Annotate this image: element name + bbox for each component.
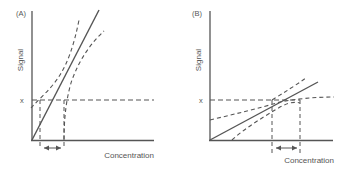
diagram-canvas: (A) Signal x Concentration (B) Signal x … xyxy=(0,0,352,171)
panel-b-xlabel: Concentration xyxy=(284,156,334,165)
panel-a-lower-confidence-curve xyxy=(64,31,104,140)
panel-a-xlabel: Concentration xyxy=(104,151,154,160)
panel-b-ylabel: Signal xyxy=(194,49,203,71)
panel-b: (B) Signal x Concentration xyxy=(192,9,334,165)
panel-b-calibration-line xyxy=(210,82,318,140)
panel-b-upper-confidence-curve xyxy=(272,78,306,100)
panel-b-bottom-confidence-curve xyxy=(232,102,300,140)
panel-b-label: (B) xyxy=(192,9,203,18)
panel-a: (A) Signal x Concentration xyxy=(16,9,154,160)
panel-a-label: (A) xyxy=(16,9,27,18)
panel-a-level-label: x xyxy=(20,96,24,105)
panel-a-calibration-line xyxy=(32,10,99,140)
panel-a-ylabel: Signal xyxy=(16,49,25,71)
panel-b-level-label: x xyxy=(199,96,203,105)
